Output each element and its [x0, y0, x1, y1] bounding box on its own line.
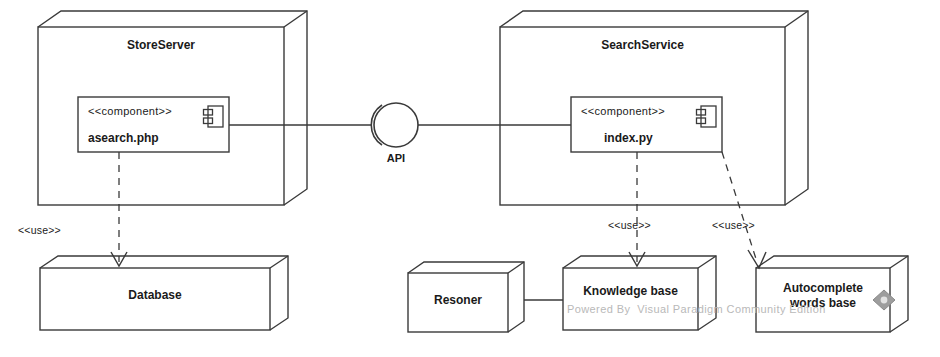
- component-icon: [204, 106, 224, 127]
- dependency-use-knowledge-base: [629, 152, 645, 266]
- interface-api-socket: [371, 105, 382, 145]
- dependency-use-autocomplete: [722, 152, 766, 268]
- dependency-use-database: [111, 152, 127, 266]
- interface-api-ball[interactable]: [374, 103, 418, 147]
- diagram-canvas: [0, 0, 940, 357]
- node-search-service[interactable]: [500, 11, 808, 205]
- component-asearch[interactable]: [78, 97, 229, 152]
- component-icon: [697, 106, 717, 127]
- artifact-resoner[interactable]: [408, 262, 524, 332]
- component-index[interactable]: [571, 97, 722, 152]
- artifact-knowledge-base[interactable]: [563, 256, 716, 330]
- visual-paradigm-logo-icon: [873, 290, 895, 310]
- artifact-database[interactable]: [40, 256, 288, 330]
